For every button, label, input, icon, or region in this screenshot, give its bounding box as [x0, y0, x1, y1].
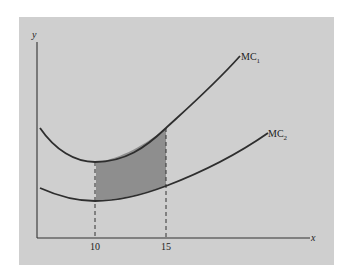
mc2-label-sub: 2	[284, 134, 288, 142]
mc1-label-main: MC	[241, 51, 257, 62]
x-axis-label: x	[310, 232, 316, 243]
mc2-label: MC2	[268, 128, 288, 142]
tick-label-15: 15	[161, 241, 171, 252]
mc2-label-main: MC	[268, 128, 284, 139]
mc1-label-sub: 1	[257, 57, 261, 65]
chart-svg: y x 10 15 MC1 MC2	[0, 0, 347, 280]
mc1-label: MC1	[241, 51, 261, 65]
y-axis-label: y	[31, 29, 37, 40]
tick-label-10: 10	[90, 241, 100, 252]
